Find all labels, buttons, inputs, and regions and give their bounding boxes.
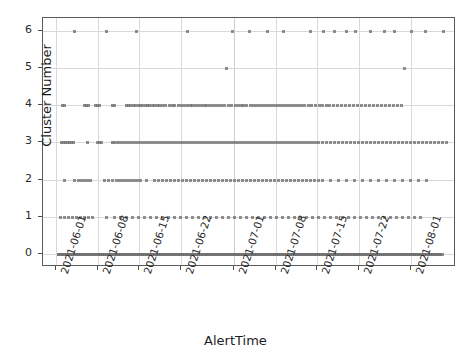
- data-point: [305, 179, 308, 182]
- data-point: [301, 179, 304, 182]
- data-point: [437, 141, 440, 144]
- data-point: [59, 216, 62, 219]
- data-point: [361, 141, 364, 144]
- y-tick-mark-1: [38, 216, 42, 217]
- data-point: [322, 30, 325, 33]
- data-point: [381, 141, 384, 144]
- data-point: [419, 216, 422, 219]
- data-point: [400, 104, 403, 107]
- x-tick-mark-2021-06-22: [180, 266, 181, 270]
- data-point: [173, 104, 176, 107]
- data-point: [245, 216, 248, 219]
- data-point: [281, 179, 284, 182]
- data-point: [266, 30, 269, 33]
- data-point: [282, 30, 285, 33]
- data-point: [213, 179, 216, 182]
- data-point: [337, 141, 340, 144]
- data-point: [368, 104, 371, 107]
- data-point: [72, 141, 75, 144]
- data-point: [429, 141, 432, 144]
- data-point: [230, 104, 233, 107]
- data-point: [401, 179, 404, 182]
- data-point: [353, 216, 356, 219]
- data-point: [103, 179, 106, 182]
- data-point: [239, 216, 242, 219]
- data-point: [98, 104, 101, 107]
- data-point: [209, 179, 212, 182]
- data-point: [333, 141, 336, 144]
- data-point: [309, 30, 312, 33]
- data-point: [329, 179, 332, 182]
- data-point: [303, 104, 306, 107]
- y-tick-label-2: 2: [10, 173, 32, 184]
- data-point: [237, 179, 240, 182]
- data-point: [413, 216, 416, 219]
- y-tick-label-6: 6: [10, 24, 32, 35]
- y-tick-mark-6: [38, 30, 42, 31]
- data-point: [164, 104, 167, 107]
- data-point: [185, 179, 188, 182]
- data-point: [241, 179, 244, 182]
- gridline-x-2021-06-01: [56, 18, 57, 265]
- data-point: [63, 216, 66, 219]
- y-tick-label-3: 3: [10, 135, 32, 146]
- y-tick-label-0: 0: [10, 247, 32, 258]
- x-tick-mark-2021-07-01: [233, 266, 234, 270]
- data-point: [361, 179, 364, 182]
- data-point: [229, 179, 232, 182]
- data-point: [359, 216, 362, 219]
- data-point: [393, 179, 396, 182]
- data-point: [356, 104, 359, 107]
- data-point: [417, 179, 420, 182]
- data-point: [425, 179, 428, 182]
- data-point: [328, 104, 331, 107]
- data-point: [185, 216, 188, 219]
- y-axis-label: Cluster Number: [39, 44, 54, 147]
- data-point: [149, 216, 152, 219]
- data-point: [407, 216, 410, 219]
- data-point: [73, 179, 76, 182]
- x-tick-mark-2021-06-01: [55, 266, 56, 270]
- data-point: [217, 179, 220, 182]
- data-point: [373, 141, 376, 144]
- data-point: [285, 179, 288, 182]
- data-point: [215, 216, 218, 219]
- data-point: [261, 179, 264, 182]
- data-point: [105, 30, 108, 33]
- data-point: [225, 67, 228, 70]
- data-point: [86, 141, 89, 144]
- data-point: [265, 179, 268, 182]
- data-point: [413, 141, 416, 144]
- data-point: [137, 216, 140, 219]
- data-point: [113, 216, 116, 219]
- x-tick-mark-2021-07-15: [316, 266, 317, 270]
- data-point: [396, 104, 399, 107]
- data-point: [273, 179, 276, 182]
- data-point: [205, 179, 208, 182]
- data-point: [345, 141, 348, 144]
- data-point: [445, 141, 448, 144]
- y-tick-label-5: 5: [10, 61, 32, 72]
- data-point: [353, 179, 356, 182]
- data-point: [105, 216, 108, 219]
- data-point: [317, 216, 320, 219]
- data-point: [388, 104, 391, 107]
- data-point: [181, 179, 184, 182]
- data-point: [409, 179, 412, 182]
- data-point: [383, 30, 386, 33]
- data-point: [317, 179, 320, 182]
- data-point: [317, 141, 320, 144]
- data-point: [384, 104, 387, 107]
- data-point: [131, 216, 134, 219]
- data-point: [257, 179, 260, 182]
- data-point: [333, 30, 336, 33]
- data-point: [245, 104, 248, 107]
- data-point: [197, 179, 200, 182]
- plot-area: [42, 17, 455, 266]
- data-point: [309, 179, 312, 182]
- data-point: [139, 179, 142, 182]
- data-point: [135, 30, 138, 33]
- data-point: [345, 30, 348, 33]
- data-point: [364, 104, 367, 107]
- y-tick-mark-0: [38, 253, 42, 254]
